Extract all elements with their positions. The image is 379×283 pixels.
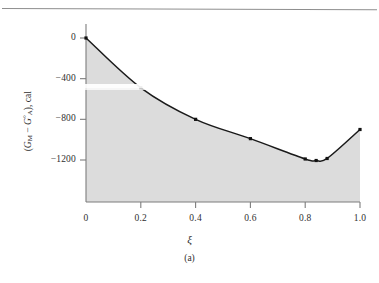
x-axis-ticks	[141, 202, 360, 208]
y-axis-title-gm: G	[23, 141, 33, 148]
y-tick-label-0: 0	[18, 33, 76, 43]
data-point-0	[84, 36, 87, 39]
y-axis-title-ga-sub: A	[26, 110, 34, 115]
x-axis-title: ξ	[0, 233, 379, 245]
y-axis-title-ga-sup: °	[22, 115, 30, 118]
data-point-7	[358, 128, 361, 131]
y-axis-title-gm-sub: M	[26, 135, 34, 141]
data-point-1	[139, 86, 142, 89]
figure-caption: (a)	[0, 253, 379, 263]
x-tick-label-5: 1.0	[354, 214, 366, 224]
figure-root: 0−400−800−1200 00.20.40.60.81.0 (GM − G°…	[0, 0, 379, 283]
data-point-5	[315, 159, 318, 162]
y-axis-title: (GM − G°A), cal	[22, 61, 34, 181]
data-point-3	[249, 137, 252, 140]
data-point-2	[194, 118, 197, 121]
y-axis-title-minus: −	[23, 125, 33, 135]
x-tick-label-1: 0.2	[135, 214, 147, 224]
y-axis-ticks	[80, 38, 86, 160]
x-tick-label-2: 0.4	[189, 214, 201, 224]
x-tick-label-4: 0.8	[299, 214, 311, 224]
y-axis-title-open: (	[23, 148, 33, 151]
y-axis-title-close: ), cal	[23, 91, 33, 110]
x-tick-label-0: 0	[84, 214, 89, 224]
data-point-4	[304, 157, 307, 160]
area-under-curve	[86, 38, 360, 202]
data-point-6	[326, 157, 329, 160]
x-tick-label-3: 0.6	[244, 214, 256, 224]
y-axis-title-ga: G	[23, 118, 33, 125]
